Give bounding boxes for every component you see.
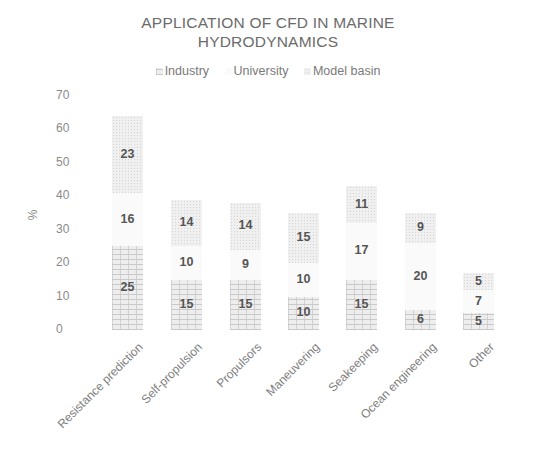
- data-label: 15: [288, 230, 319, 244]
- data-label: 25: [112, 280, 143, 294]
- x-tick-label: Other: [466, 340, 497, 371]
- data-label: 10: [288, 305, 319, 319]
- y-tick-label: 0: [56, 322, 86, 336]
- data-label: 9: [405, 220, 436, 234]
- x-tick-label: Propulsors: [213, 340, 263, 390]
- data-label: 15: [346, 297, 377, 311]
- y-tick-label: 10: [56, 289, 86, 303]
- data-label: 14: [230, 218, 261, 232]
- model-basin-swatch-icon: [304, 68, 311, 75]
- title-line-1: APPLICATION OF CFD IN MARINE: [0, 13, 536, 32]
- data-label: 10: [288, 272, 319, 286]
- data-label: 11: [346, 197, 377, 211]
- y-tick-label: 70: [56, 88, 86, 102]
- x-tick-label: Seakeeping: [325, 340, 380, 395]
- legend-item-industry: Industry: [156, 64, 209, 78]
- y-tick-label: 20: [56, 255, 86, 269]
- x-tick-label: Self-propulsion: [138, 340, 205, 407]
- y-tick-label: 50: [56, 155, 86, 169]
- y-tick-label: 30: [56, 222, 86, 236]
- industry-swatch-icon: [156, 68, 163, 75]
- y-tick-label: 60: [56, 121, 86, 135]
- legend-item-model-basin: Model basin: [304, 64, 380, 78]
- data-label: 7: [463, 294, 494, 308]
- data-label: 6: [405, 312, 436, 326]
- y-axis-label: %: [26, 210, 40, 221]
- data-label: 23: [112, 147, 143, 161]
- data-label: 5: [463, 274, 494, 288]
- x-tick-label: Maneuvering: [263, 340, 322, 399]
- data-label: 9: [230, 257, 261, 271]
- data-label: 20: [405, 269, 436, 283]
- data-label: 15: [230, 297, 261, 311]
- data-label: 15: [171, 297, 202, 311]
- title-line-2: HYDRODYNAMICS: [0, 32, 536, 51]
- data-label: 10: [171, 255, 202, 269]
- legend-item-university: University: [225, 64, 289, 78]
- data-label: 17: [346, 243, 377, 257]
- chart-title: APPLICATION OF CFD IN MARINE HYDRODYNAMI…: [0, 13, 536, 51]
- y-tick-label: 40: [56, 188, 86, 202]
- x-tick-label: Resistance prediction: [55, 340, 146, 431]
- data-label: 16: [112, 212, 143, 226]
- university-swatch-icon: [225, 68, 232, 75]
- legend: Industry University Model basin: [0, 64, 536, 78]
- data-label: 14: [171, 215, 202, 229]
- data-label: 5: [463, 314, 494, 328]
